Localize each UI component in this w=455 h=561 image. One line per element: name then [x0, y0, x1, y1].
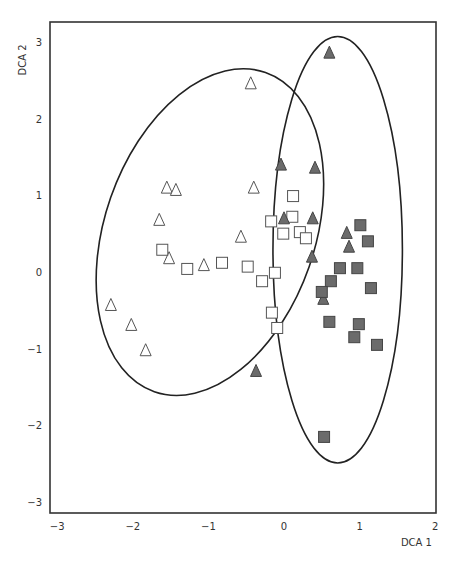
- open-triangle-marker: [235, 230, 246, 242]
- filled-square-marker: [325, 276, 336, 287]
- filled-square-marker: [316, 286, 327, 297]
- open-square-marker: [257, 276, 268, 287]
- filled-square-marker: [355, 220, 366, 231]
- filled-triangle-marker: [251, 364, 262, 376]
- open-square-marker: [269, 267, 280, 278]
- filled-triangle-marker: [275, 158, 286, 170]
- x-tick-label: −3: [50, 521, 65, 532]
- x-axis-title: DCA 1: [401, 537, 432, 548]
- open-triangle-marker: [161, 181, 172, 193]
- x-tick-label: 0: [281, 521, 287, 532]
- x-tick-label: 2: [432, 521, 438, 532]
- open-group-ellipse: [55, 38, 365, 426]
- filled-square-marker: [352, 263, 363, 274]
- open-triangle-marker: [170, 183, 181, 195]
- y-tick-label: −3: [27, 497, 42, 508]
- y-tick-label: 2: [36, 114, 42, 125]
- filled-triangle-marker: [344, 240, 355, 252]
- y-tick-label: 1: [36, 190, 42, 201]
- y-tick-label: −1: [27, 344, 42, 355]
- open-square-marker: [266, 307, 277, 318]
- open-square-marker: [278, 228, 289, 239]
- y-axis-ticks: −3−2−10123: [27, 37, 42, 508]
- open-triangle-marker: [105, 298, 116, 310]
- filled-square-marker: [371, 339, 382, 350]
- filled-triangle-marker: [324, 46, 335, 58]
- open-triangle-marker: [198, 259, 209, 271]
- filled-triangle-marker: [307, 212, 318, 224]
- filled-triangle-marker: [341, 226, 352, 238]
- x-tick-label: −2: [125, 521, 140, 532]
- open-triangle-marker: [245, 77, 256, 89]
- points-layer: [105, 46, 382, 442]
- open-triangle-marker: [140, 344, 151, 356]
- dca-scatter-plot: −3−2−1012 −3−2−10123 DCA 1 DCA 2: [0, 0, 455, 561]
- filled-triangle-marker: [306, 250, 317, 262]
- y-tick-label: 3: [36, 37, 42, 48]
- filled-square-marker: [349, 332, 360, 343]
- y-axis-title: DCA 2: [17, 44, 28, 75]
- open-square-marker: [157, 244, 168, 255]
- open-square-marker: [217, 257, 228, 268]
- filled-square-marker: [365, 283, 376, 294]
- filled-square-marker: [319, 431, 330, 442]
- open-square-marker: [266, 216, 277, 227]
- x-tick-label: 1: [356, 521, 362, 532]
- filled-square-marker: [353, 319, 364, 330]
- open-triangle-marker: [154, 213, 165, 225]
- open-triangle-marker: [248, 181, 259, 193]
- y-tick-label: −2: [27, 420, 42, 431]
- filled-square-marker: [362, 236, 373, 247]
- open-square-marker: [300, 233, 311, 244]
- open-square-marker: [272, 322, 283, 333]
- open-triangle-marker: [126, 318, 137, 330]
- open-square-marker: [182, 263, 193, 274]
- filled-group-ellipse: [273, 37, 402, 463]
- x-axis-ticks: −3−2−1012: [50, 521, 439, 532]
- filled-triangle-marker: [309, 161, 320, 173]
- open-square-marker: [242, 261, 253, 272]
- filled-square-marker: [334, 263, 345, 274]
- filled-square-marker: [324, 316, 335, 327]
- y-tick-label: 0: [36, 267, 42, 278]
- open-square-marker: [288, 191, 299, 202]
- x-tick-label: −1: [201, 521, 216, 532]
